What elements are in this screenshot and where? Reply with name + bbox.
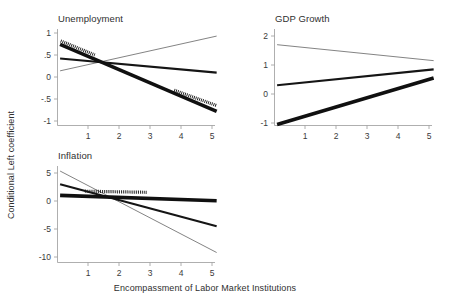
y-ticklabel: 5	[46, 168, 51, 178]
x-ticklabel: 2	[334, 131, 339, 141]
y-ticklabel: .5	[44, 50, 51, 60]
panel-title-inflation: Inflation	[58, 150, 92, 161]
panel-inflation: Inflation 5 0 -5 -10	[39, 150, 217, 278]
figure-container: Unemployment 1 .5 0 -.5 -1	[0, 0, 453, 300]
series-line-thin	[60, 171, 217, 252]
x-ticklabel: 4	[179, 268, 184, 278]
y-ticklabel: -.5	[41, 94, 51, 104]
y-ticklabel: 1	[263, 60, 268, 70]
y-ticklabel: -1	[260, 118, 268, 128]
y-ticklabels-inflation: 5 0 -5 -10	[39, 168, 52, 262]
x-ticks-unemployment	[88, 126, 212, 130]
x-ticklabels-inflation: 1 2 3 4 5	[86, 268, 215, 278]
y-ticklabel: 0	[46, 72, 51, 82]
y-ticklabel: -5	[43, 224, 51, 234]
series-line-thin	[277, 45, 434, 61]
panel-gdp-growth: GDP Growth 2 1 0 -1	[260, 13, 433, 141]
panel-title-unemployment: Unemployment	[58, 13, 123, 24]
series-group-gdp	[277, 45, 434, 125]
y-ticklabel: 1	[46, 28, 51, 38]
x-ticklabel: 3	[148, 268, 153, 278]
x-ticklabel: 2	[117, 268, 122, 278]
multi-panel-line-chart: Unemployment 1 .5 0 -.5 -1	[0, 0, 453, 300]
series-line-thick	[60, 195, 217, 200]
y-ticks-gdp	[271, 36, 275, 123]
y-ticklabel: 2	[263, 31, 268, 41]
series-group-unemployment	[60, 36, 217, 111]
x-ticklabel: 3	[365, 131, 370, 141]
x-ticklabel: 2	[117, 131, 122, 141]
y-ticklabels-gdp: 2 1 0 -1	[260, 31, 268, 128]
x-ticklabel: 1	[86, 131, 91, 141]
y-ticklabel: 0	[46, 196, 51, 206]
x-ticklabels-unemployment: 1 2 3 4 5	[86, 131, 215, 141]
series-line-medium	[277, 69, 434, 85]
x-ticklabels-gdp: 1 2 3 4 5	[303, 131, 432, 141]
panel-title-gdp-growth: GDP Growth	[275, 13, 330, 24]
x-ticklabel: 5	[210, 131, 215, 141]
x-ticklabel: 4	[179, 131, 184, 141]
series-line-medium	[60, 184, 217, 226]
x-ticklabel: 1	[86, 268, 91, 278]
y-ticklabel: -10	[39, 252, 52, 262]
x-ticks-inflation	[88, 263, 212, 267]
y-ticklabels-unemployment: 1 .5 0 -.5 -1	[41, 28, 51, 126]
x-ticklabel: 5	[210, 268, 215, 278]
y-ticklabel: -1	[43, 116, 51, 126]
series-group-inflation	[60, 171, 217, 252]
series-band	[85, 191, 148, 192]
y-ticks-unemployment	[54, 33, 58, 121]
x-ticks-gdp	[305, 126, 429, 130]
y-ticks-inflation	[54, 173, 58, 257]
x-axis-title: Encompassment of Labor Market Institutio…	[114, 283, 297, 293]
y-axis-title: Conditional Left coefficient	[6, 110, 16, 219]
series-line-thick	[277, 78, 434, 124]
x-ticklabel: 4	[396, 131, 401, 141]
y-ticklabel: 0	[263, 89, 268, 99]
series-line-thick	[60, 44, 217, 111]
x-ticklabel: 5	[427, 131, 432, 141]
panel-unemployment: Unemployment 1 .5 0 -.5 -1	[41, 13, 217, 141]
x-ticklabel: 3	[148, 131, 153, 141]
x-ticklabel: 1	[303, 131, 308, 141]
